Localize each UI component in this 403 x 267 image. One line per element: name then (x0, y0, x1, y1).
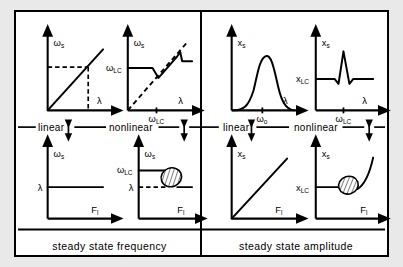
label-x-s: xs (238, 38, 247, 49)
label-force: Fl (275, 205, 283, 216)
locked-branch (128, 52, 180, 78)
figure-canvas: ωs λ ωs ωLC λ ωLC xs λ ωo xs xLC λ ωLC ω… (16, 12, 387, 255)
label-omega-s: ωs (145, 149, 156, 160)
divider-label-freq-linear: linear (38, 122, 64, 133)
spike-curve (317, 51, 373, 83)
divider-label-amp-linear: linear (223, 122, 249, 133)
label-omega-lc-y: ωLC (106, 63, 122, 74)
caption-steady-state-amplitude: steady state amplitude (203, 240, 389, 252)
caption-steady-state-frequency: steady state frequency (16, 240, 203, 252)
label-lambda-y: λ (129, 183, 134, 193)
divider-label-amp-nonlinear: nonlinear (294, 122, 338, 133)
label-omega-zero: ωo (256, 114, 267, 125)
label-x-lc-y: xLC (296, 74, 309, 85)
rising-amplitude-branch (357, 158, 373, 189)
label-omega-s: ωs (54, 38, 65, 49)
label-force: Fl (360, 205, 368, 216)
label-force: Fl (91, 205, 99, 216)
label-lambda: λ (178, 97, 183, 107)
label-x-s: xs (238, 149, 247, 160)
label-lambda-y: λ (38, 183, 43, 193)
label-x-s: xs (322, 149, 331, 160)
label-x-lc-y: xLC (296, 183, 309, 194)
label-force: Fl (177, 205, 185, 216)
upper-plateau (180, 52, 192, 61)
linear-response-line (48, 49, 103, 110)
label-omega-s: ωs (134, 38, 145, 49)
label-x-s: xs (322, 38, 331, 49)
label-lambda: λ (97, 97, 102, 107)
transition-region-hatch (158, 165, 184, 190)
transition-region-hatch (336, 174, 360, 197)
label-lambda: λ (283, 97, 288, 107)
label-lambda: λ (362, 97, 367, 107)
figure-root: ωs λ ωs ωLC λ ωLC xs λ ωo xs xLC λ ωLC ω… (0, 0, 403, 267)
label-omega-s: ωs (54, 149, 65, 160)
divider-label-freq-nonlinear: nonlinear (109, 122, 153, 133)
figure-frame: ωs λ ωs ωLC λ ωLC xs λ ωo xs xLC λ ωLC ω… (14, 10, 389, 257)
label-omega-lc-y: ωLC (117, 165, 133, 176)
